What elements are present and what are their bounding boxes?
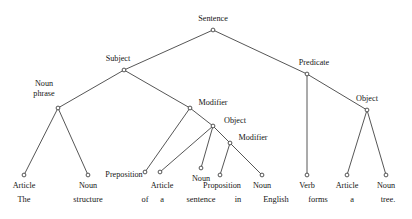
tree-leaf-node-leaf-article-1	[22, 173, 26, 177]
tree-node-label-modifier1: Modifier	[198, 98, 227, 107]
tree-leaf-node-leaf-noun-2	[199, 166, 203, 170]
tree-node-label-nounphrase: Nounphrase	[33, 79, 55, 98]
tree-edge	[201, 126, 213, 168]
tree-node-modifier1	[188, 106, 192, 110]
tree-leaves: ArticleNounPrepositionArticleNounProposi…	[13, 166, 395, 190]
tree-nodes: SentenceSubjectPredicateNounphraseModifi…	[33, 14, 378, 145]
sentence-word: structure	[73, 195, 103, 204]
tree-node-object2	[365, 108, 369, 112]
tree-leaf-node-leaf-verb	[305, 173, 309, 177]
tree-leaf-label-leaf-article-1: Article	[13, 181, 36, 190]
tree-edge	[213, 126, 230, 143]
sentence-word: The	[17, 195, 30, 204]
tree-node-subject	[122, 68, 126, 72]
tree-leaf-label-leaf-noun-4: Noun	[377, 181, 395, 190]
tree-edge	[230, 143, 262, 175]
tree-leaf-node-leaf-proposition	[218, 173, 222, 177]
tree-leaf-label-leaf-article-3: Article	[336, 181, 359, 190]
tree-leaf-label-leaf-article-2: Article	[151, 181, 174, 190]
tree-node-modifier2	[228, 141, 232, 145]
tree-edge	[124, 70, 190, 108]
tree-leaf-node-leaf-preposition	[143, 170, 147, 174]
tree-edge	[160, 126, 213, 172]
tree-node-label-object1: Object	[224, 116, 247, 125]
tree-node-predicate	[305, 72, 309, 76]
tree-edge	[58, 108, 88, 175]
tree-node-label-sentence: Sentence	[198, 14, 228, 23]
tree-leaf-node-leaf-noun-4	[384, 173, 388, 177]
sentence-word: a	[350, 195, 354, 204]
tree-node-object1	[211, 124, 215, 128]
tree-node-label-object2: Object	[356, 94, 379, 103]
tree-node-label-predicate: Predicate	[299, 58, 330, 67]
sentence-word: English	[263, 195, 289, 204]
tree-edge	[145, 108, 190, 172]
tree-edge	[307, 74, 367, 110]
tree-edge	[213, 30, 307, 74]
tree-leaf-label-leaf-proposition: Proposition	[203, 181, 241, 190]
tree-leaf-label-leaf-noun-1: Noun	[79, 181, 97, 190]
sentence-word: in	[235, 195, 242, 204]
tree-edge	[58, 70, 124, 108]
sentence-word: forms	[308, 195, 328, 204]
tree-leaf-node-leaf-article-2	[158, 170, 162, 174]
sentence-word: sentence	[187, 195, 216, 204]
tree-edge	[24, 108, 58, 175]
tree-node-nounphrase	[56, 106, 60, 110]
tree-edge	[124, 30, 213, 70]
tree-leaf-label-leaf-verb: Verb	[299, 181, 314, 190]
tree-leaf-node-leaf-noun-3	[260, 173, 264, 177]
sentence-line: ThestructureofasentenceinEnglishformsatr…	[17, 195, 395, 204]
tree-edge	[220, 143, 230, 175]
tree-leaf-label-leaf-preposition: Preposition	[105, 170, 142, 179]
tree-edge	[347, 110, 367, 175]
tree-node-label-subject: Subject	[106, 54, 131, 63]
tree-edge	[367, 110, 386, 175]
sentence-word: a	[160, 195, 164, 204]
tree-node-label-modifier2: Modifier	[238, 133, 267, 142]
sentence-word: tree.	[381, 195, 396, 204]
tree-leaf-label-leaf-noun-3: Noun	[253, 181, 271, 190]
tree-node-sentence	[211, 28, 215, 32]
tree-leaf-node-leaf-article-3	[345, 173, 349, 177]
tree-canvas: SentenceSubjectPredicateNounphraseModifi…	[0, 0, 412, 219]
tree-leaf-node-leaf-noun-1	[86, 173, 90, 177]
sentence-word: of	[142, 195, 149, 204]
parse-tree-diagram: SentenceSubjectPredicateNounphraseModifi…	[0, 0, 412, 219]
tree-edge	[190, 108, 213, 126]
